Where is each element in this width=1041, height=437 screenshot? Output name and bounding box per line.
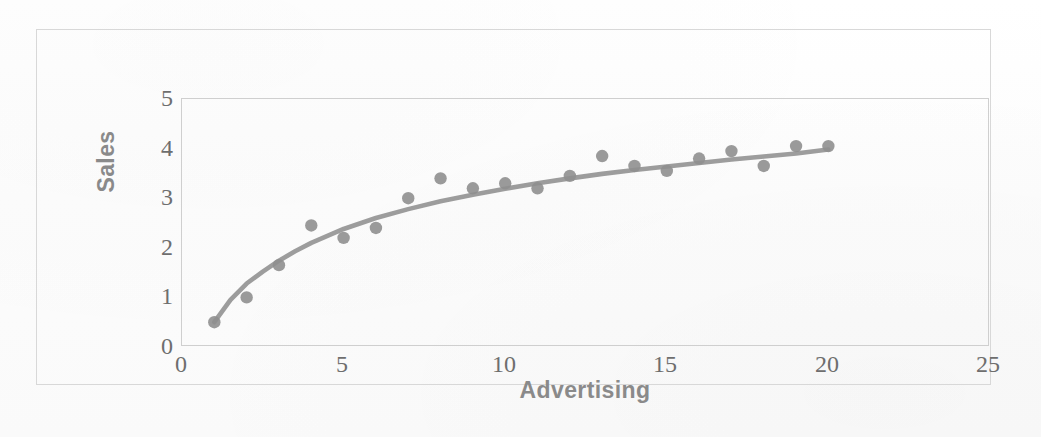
data-point <box>370 222 382 234</box>
data-point <box>693 152 705 164</box>
chart-screenshot: Sales 5 4 3 2 1 0 0 5 10 15 20 25 Advert… <box>0 0 1041 437</box>
plot-area <box>181 98 989 346</box>
data-point <box>337 232 349 244</box>
y-tick-label-1: 1 <box>133 284 173 308</box>
trend-curve <box>214 150 828 323</box>
data-point <box>564 170 576 182</box>
y-axis-title: Sales <box>93 87 120 237</box>
y-tick-label-2: 2 <box>133 235 173 259</box>
data-point <box>273 259 285 271</box>
data-point <box>725 145 737 157</box>
x-tick-label-10: 10 <box>481 352 527 376</box>
plot-inner <box>182 99 988 345</box>
data-point <box>628 160 640 172</box>
data-point <box>822 140 834 152</box>
data-point <box>434 172 446 184</box>
x-tick-label-25: 25 <box>965 352 1011 376</box>
chart-canvas <box>182 99 990 347</box>
chart-outer-frame: Sales 5 4 3 2 1 0 0 5 10 15 20 25 Advert… <box>36 29 991 385</box>
data-point <box>402 192 414 204</box>
y-tick-label-3: 3 <box>133 185 173 209</box>
data-point <box>467 182 479 194</box>
y-tick-label-4: 4 <box>133 136 173 160</box>
x-tick-label-0: 0 <box>158 352 204 376</box>
data-points-group <box>208 140 834 328</box>
y-tick-label-5: 5 <box>133 86 173 110</box>
data-point <box>240 291 252 303</box>
data-point <box>499 177 511 189</box>
data-point <box>661 165 673 177</box>
data-point <box>305 219 317 231</box>
data-point <box>758 160 770 172</box>
trend-curve-group <box>214 150 828 323</box>
data-point <box>531 182 543 194</box>
x-axis-title: Advertising <box>181 377 989 404</box>
data-point <box>596 150 608 162</box>
data-point <box>790 140 802 152</box>
x-tick-label-5: 5 <box>319 352 365 376</box>
x-tick-label-15: 15 <box>642 352 688 376</box>
x-tick-label-20: 20 <box>804 352 850 376</box>
data-point <box>208 316 220 328</box>
